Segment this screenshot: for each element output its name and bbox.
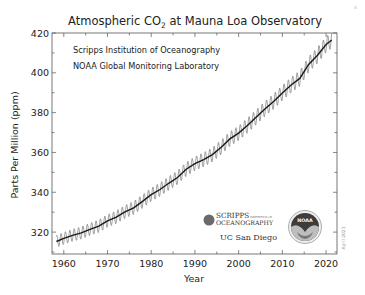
x-tick-labels: 1960197019801990200020102020 [52,258,338,269]
y-tick-label: 420 [31,28,49,39]
noaa-logo: NOAA [289,211,322,244]
ucsd-wordmark: UC San Diego [220,233,277,242]
y-tick-label: 360 [31,147,49,158]
institution-scripps-label: Scripps Institution of Oceanography [73,45,220,55]
x-tick-label: 2020 [314,258,338,269]
scripps-oceanography: OCEANOGRAPHY [216,219,274,226]
x-tick-label: 2000 [227,258,251,269]
scripps-globe-icon [204,215,215,226]
co2-chart: Atmospheric CO2 at Mauna Loa Observatory… [0,0,365,295]
date-note: April 2021 [341,226,346,249]
institution-noaa-label: NOAA Global Monitoring Laboratory [73,61,219,71]
y-tick-label: 380 [31,107,49,118]
x-tick-label: 1970 [95,258,119,269]
corner-mark [354,6,357,9]
x-axis-label: Year [183,273,204,284]
chart-title: Atmospheric CO2 at Mauna Loa Observatory [68,14,322,30]
y-tick-label: 320 [31,227,49,238]
x-tick-label: 1980 [139,258,163,269]
y-axis-label: Parts Per Million (ppm) [9,91,20,198]
x-tick-label: 2010 [270,258,294,269]
noaa-wordmark: NOAA [297,218,313,223]
y-tick-labels: 320340360380400420 [31,28,49,238]
y-tick-label: 400 [31,67,49,78]
x-tick-label: 1990 [183,258,207,269]
scripps-logo: SCRIPPS INSTITUTION OF OCEANOGRAPHY UC S… [204,211,278,242]
x-tick-label: 1960 [52,258,76,269]
y-tick-label: 340 [31,187,49,198]
